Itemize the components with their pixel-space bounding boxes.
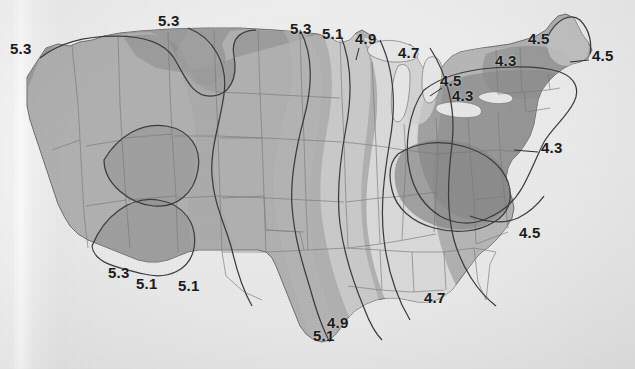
contour-label-4-5-michigan: 4.5 [440,73,461,88]
contour-label-5-1-southcentral: 5.1 [178,278,199,293]
map-screenshot: 5.3 5.3 5.3 5.1 4.9 4.7 4.5 4.3 4.3 4.5 … [0,0,635,369]
contour-label-4-5-maine-east: 4.5 [592,48,613,63]
contour-label-4-3-michigan: 4.3 [452,88,473,103]
contour-label-5-1-minnesota: 5.1 [322,26,343,41]
contour-label-4-3-virginia: 4.3 [541,140,562,155]
contour-label-4-7-gulf: 4.7 [424,290,445,305]
contour-label-5-1-texas: 5.1 [313,328,334,343]
contour-label-4-5-maine-west: 4.5 [528,31,549,46]
contour-label-4-7-wisconsin: 4.7 [398,45,419,60]
contour-label-4-3-newyork: 4.3 [495,53,516,68]
us-isopleth-map [0,0,635,369]
contour-label-4-9-minnesota: 4.9 [355,31,376,46]
contour-label-5-3-west: 5.3 [10,41,31,56]
contour-label-5-3-southwest: 5.3 [108,265,129,280]
contour-label-4-5-carolina: 4.5 [519,225,540,240]
contour-label-5-3-upper-midwest: 5.3 [290,21,311,36]
contour-label-5-1-southwest: 5.1 [136,276,157,291]
contour-label-5-3-north: 5.3 [158,13,179,28]
